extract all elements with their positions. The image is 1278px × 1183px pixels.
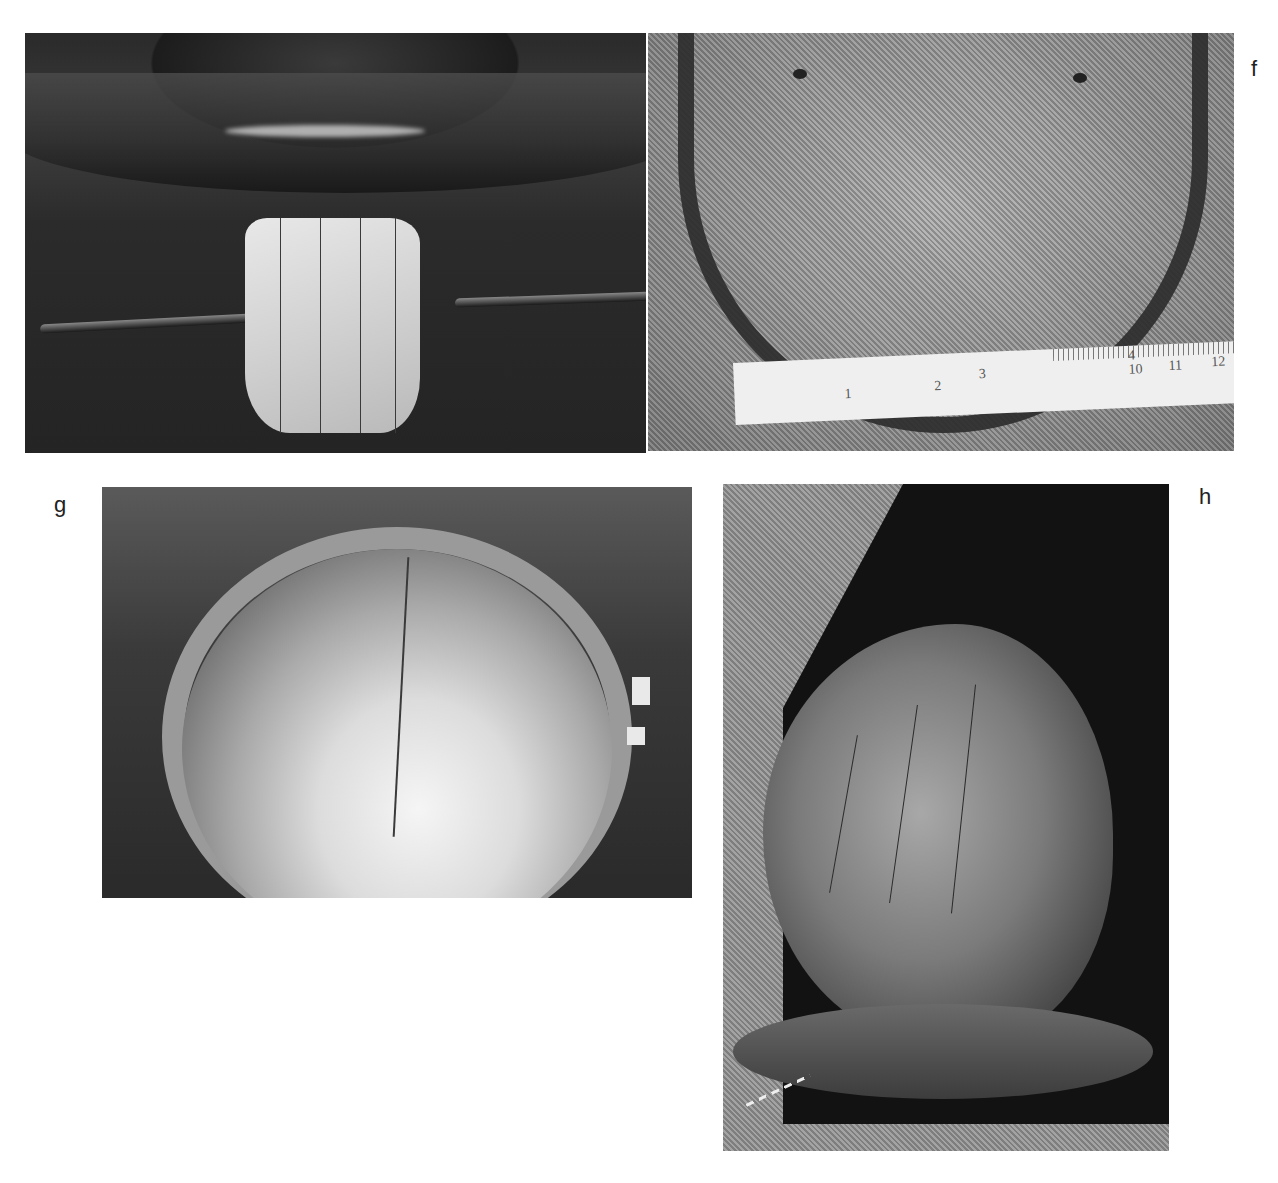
ruler-number: 2: [934, 378, 942, 394]
ruler-number: 12: [1211, 354, 1226, 371]
figure-panel-h: [723, 484, 1169, 1151]
panel-label-g: g: [54, 492, 66, 518]
panel-label-h: h: [1199, 484, 1211, 510]
scalp-flap: [733, 1004, 1153, 1099]
figure-panel-f: 1 2 3 4 10 11 12: [648, 33, 1234, 451]
bone-graft: [245, 218, 420, 433]
graft-seam: [360, 218, 361, 433]
ruler-number: 3: [978, 366, 986, 382]
figure-panel-e: [25, 33, 646, 453]
ruler-number: 10: [1128, 361, 1143, 378]
ruler-number: 1: [844, 386, 852, 402]
graft-seam: [320, 218, 321, 433]
ruler-number: 11: [1168, 357, 1182, 374]
fixation-plate: [632, 677, 650, 705]
figure-panel-g: [102, 487, 692, 898]
graft-seam: [280, 218, 281, 433]
panel-label-f: f: [1251, 56, 1257, 82]
fixation-plate: [627, 727, 645, 745]
retractor-right: [455, 292, 646, 308]
drape-sheen: [225, 125, 425, 137]
graft-seam: [395, 218, 396, 433]
